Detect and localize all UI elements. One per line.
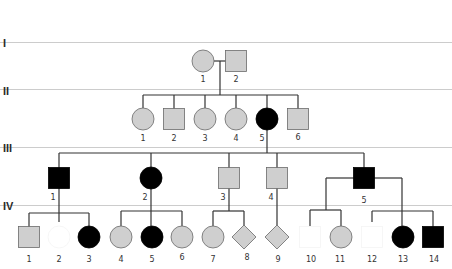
label-II-2: 2 <box>164 134 184 143</box>
male-symbol-III-3 <box>219 168 240 189</box>
label-IV-10: 10 <box>301 255 321 264</box>
female-symbol-IV-6 <box>171 226 193 248</box>
female-symbol-IV-7 <box>202 226 224 248</box>
label-IV-14: 14 <box>424 255 444 264</box>
female-symbol-IV-5 <box>141 226 163 248</box>
male-symbol-III-1 <box>49 168 70 189</box>
male-symbol-IV-1 <box>19 227 40 248</box>
label-III-5: 5 <box>354 196 374 205</box>
label-I-2: 2 <box>226 75 246 84</box>
label-II-4: 4 <box>226 134 246 143</box>
female-symbol-IV-3 <box>78 226 100 248</box>
female-symbol-IV-13 <box>392 226 414 248</box>
label-IV-13: 13 <box>393 255 413 264</box>
generation-label-I: I <box>3 37 6 49</box>
female-symbol-II-4 <box>225 108 247 130</box>
generation-label-III: III <box>3 142 12 154</box>
label-III-3: 3 <box>213 193 233 202</box>
male-symbol-IV-10 <box>300 227 321 248</box>
male-symbol-I-2 <box>226 51 247 72</box>
label-IV-7: 7 <box>203 255 223 264</box>
label-IV-9: 9 <box>268 255 288 264</box>
male-symbol-IV-12 <box>362 227 383 248</box>
label-IV-12: 12 <box>362 255 382 264</box>
label-II-3: 3 <box>195 134 215 143</box>
label-II-5: 5 <box>252 134 272 143</box>
label-I-1: 1 <box>193 75 213 84</box>
male-symbol-III-4 <box>267 168 288 189</box>
female-symbol-II-5 <box>256 108 278 130</box>
label-IV-5: 5 <box>142 255 162 264</box>
male-symbol-III-5 <box>354 168 375 189</box>
female-symbol-III-2 <box>140 167 162 189</box>
label-IV-6: 6 <box>172 253 192 262</box>
label-IV-4: 4 <box>111 255 131 264</box>
label-III-2: 2 <box>135 193 155 202</box>
label-IV-1: 1 <box>19 255 39 264</box>
male-symbol-II-2 <box>164 109 185 130</box>
label-III-1: 1 <box>43 193 63 202</box>
female-symbol-I-1 <box>192 50 214 72</box>
female-symbol-II-3 <box>194 108 216 130</box>
unknown-sex-symbol-IV-9 <box>265 225 289 249</box>
male-symbol-II-6 <box>288 109 309 130</box>
unknown-sex-symbol-IV-8 <box>232 225 256 249</box>
label-IV-8: 8 <box>237 253 257 262</box>
female-symbol-II-1 <box>132 108 154 130</box>
label-IV-3: 3 <box>79 255 99 264</box>
female-symbol-IV-11 <box>330 226 352 248</box>
label-IV-2: 2 <box>49 255 69 264</box>
male-symbol-IV-14 <box>423 227 444 248</box>
label-II-1: 1 <box>133 134 153 143</box>
label-II-6: 6 <box>288 133 308 142</box>
generation-label-II: II <box>3 85 9 97</box>
female-symbol-IV-2 <box>48 226 70 248</box>
label-IV-11: 11 <box>330 255 350 264</box>
label-III-4: 4 <box>261 193 281 202</box>
pedigree-diagram: I II III IV 1 2 1 2 3 4 5 6 1 2 3 4 5 1 … <box>0 0 452 269</box>
generation-label-IV: IV <box>3 200 13 212</box>
female-symbol-IV-4 <box>110 226 132 248</box>
